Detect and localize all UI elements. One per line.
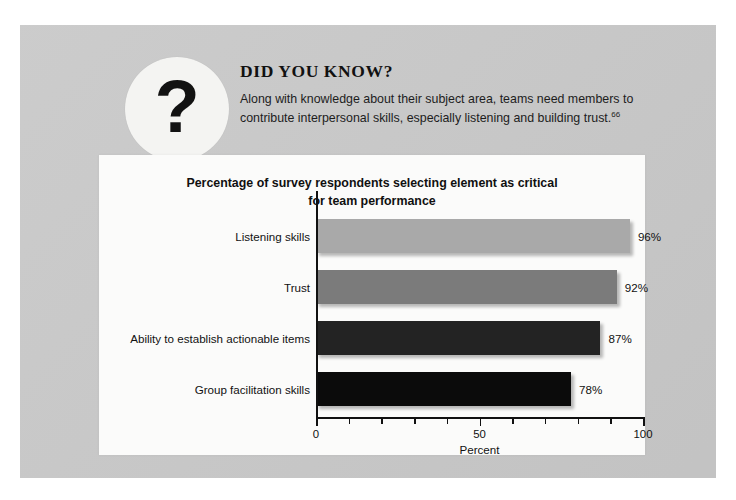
bar-value-label: 87%: [608, 332, 631, 345]
bar: [316, 321, 600, 355]
bar-value-label: 78%: [579, 383, 602, 396]
bar-value-label: 96%: [638, 230, 661, 243]
callout-text-block: DID YOU KNOW? Along with knowledge about…: [240, 61, 690, 128]
bar-category-label: Ability to establish actionable items: [130, 332, 310, 345]
x-axis-tick: [610, 417, 612, 424]
bar-row: Group facilitation skills78%: [99, 366, 645, 412]
did-you-know-callout: ? DID YOU KNOW? Along with knowledge abo…: [105, 35, 695, 155]
callout-heading: DID YOU KNOW?: [240, 61, 690, 82]
bar-category-label: Trust: [284, 281, 310, 294]
question-mark-badge: ?: [125, 57, 229, 161]
callout-body: Along with knowledge about their subject…: [240, 91, 690, 128]
x-axis-tick: [349, 417, 351, 424]
x-axis-tick-label: 0: [313, 428, 319, 440]
page-panel: ? DID YOU KNOW? Along with knowledge abo…: [20, 25, 716, 478]
bar-row: Trust92%: [99, 264, 645, 310]
x-axis-tick: [316, 417, 318, 426]
x-axis-tick: [512, 417, 514, 424]
bar: [316, 270, 617, 304]
x-axis-tick: [381, 417, 383, 424]
x-axis-tick: [545, 417, 547, 424]
bar-row: Listening skills96%: [99, 213, 645, 259]
y-axis-line: [316, 191, 318, 418]
bar: [316, 372, 571, 406]
bar-chart-plot: Listening skills96%Trust92%Ability to es…: [99, 155, 645, 455]
footnote-marker: 66: [611, 110, 620, 119]
x-axis-tick-label: 50: [473, 428, 486, 440]
bar-category-label: Group facilitation skills: [195, 383, 310, 396]
x-axis-tick: [414, 417, 416, 424]
question-mark-icon: ?: [154, 70, 199, 144]
callout-body-text: Along with knowledge about their subject…: [240, 92, 633, 125]
bar: [316, 219, 630, 253]
x-axis-tick: [447, 417, 449, 424]
x-axis-tick: [643, 417, 645, 426]
x-axis-label: Percent: [316, 443, 643, 456]
x-axis-tick-label: 100: [633, 428, 652, 440]
chart-card: Percentage of survey respondents selecti…: [99, 155, 645, 455]
bar-row: Ability to establish actionable items87%: [99, 315, 645, 361]
x-axis-tick: [578, 417, 580, 424]
bar-value-label: 92%: [625, 281, 648, 294]
x-axis-tick: [480, 417, 482, 426]
bar-category-label: Listening skills: [235, 230, 310, 243]
